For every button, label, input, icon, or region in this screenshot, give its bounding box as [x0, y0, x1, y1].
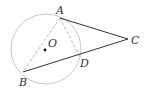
center-point-o	[44, 49, 47, 52]
geometry-diagram: A B C D O	[0, 0, 145, 90]
label-o: O	[48, 37, 57, 50]
label-d: D	[79, 57, 89, 70]
label-b: B	[18, 76, 27, 89]
label-a: A	[55, 4, 64, 17]
circle-o	[11, 14, 81, 84]
label-c: C	[131, 34, 140, 47]
segment-ac	[60, 18, 128, 39]
